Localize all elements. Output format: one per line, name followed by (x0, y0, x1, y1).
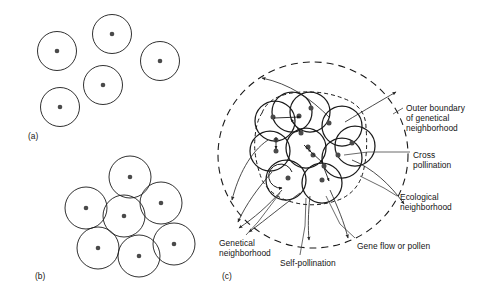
cross-pollination-label-line: Cross (413, 150, 451, 160)
plant-dot (137, 254, 142, 259)
genetical-neighborhood-label-line: Genetical (219, 238, 271, 248)
genetical-neighborhood-label-line: neighborhood (219, 248, 271, 258)
plant-dot (55, 49, 60, 54)
ecological-neighborhood-label: Ecologicalneighborhood (400, 192, 452, 212)
plant-dot (128, 175, 133, 180)
plant-dot (110, 32, 115, 37)
plant-dot (336, 153, 341, 158)
plant-dot (297, 114, 302, 119)
outer-boundary-label-line: Outer boundary (406, 103, 465, 113)
plant-dot (350, 141, 355, 146)
plant-dot (274, 149, 279, 154)
ecological-neighborhood-label-line: Ecological (400, 192, 452, 202)
plant-dot (96, 246, 101, 251)
plant-dot (158, 59, 163, 64)
plant-dot (84, 206, 89, 211)
plant-dot (159, 201, 164, 206)
plant-dot (322, 164, 327, 169)
panel-tag-b: (b) (35, 271, 45, 281)
plant-dot (327, 121, 332, 126)
ecological-neighborhood-label-line: neighborhood (400, 202, 452, 212)
plant-dot (320, 178, 325, 183)
plant-dot (58, 105, 63, 110)
cross-pollination-label-line: pollination (413, 160, 451, 170)
plant-dot (286, 176, 291, 181)
plant-dot (101, 83, 106, 88)
plant-dot (122, 214, 127, 219)
plant-dot (309, 106, 314, 111)
self-pollination-label: Self-pollination (280, 258, 336, 268)
gene-flow-label-line: Gene flow or pollen (357, 241, 430, 251)
outer-boundary-label-line: neighborhood (406, 123, 465, 133)
outer-boundary-label: Outer boundaryof geneticalneighborhood (406, 103, 465, 134)
genetical-neighborhood-label: Geneticalneighborhood (219, 238, 271, 258)
gene-flow-label: Gene flow or pollen (357, 241, 430, 251)
plant-dot (271, 115, 276, 120)
outer-boundary-label-line: of genetical (406, 113, 465, 123)
plant-dot (172, 242, 177, 247)
cross-pollination-label: Crosspollination (413, 150, 451, 170)
panel-tag-a: (a) (28, 131, 38, 141)
panel-tag-c: (c) (222, 271, 232, 281)
self-pollination-label-line: Self-pollination (280, 258, 336, 268)
